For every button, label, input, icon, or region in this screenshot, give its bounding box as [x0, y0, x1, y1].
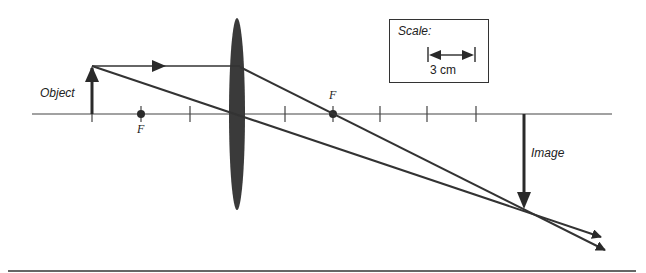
scale-title: Scale:	[398, 24, 431, 38]
image-label: Image	[531, 146, 564, 160]
ray-diagram	[0, 0, 646, 273]
focal-label-left: F	[137, 122, 144, 137]
object-label: Object	[40, 86, 75, 100]
focal-point-left	[137, 110, 145, 118]
scale-value: 3 cm	[430, 63, 456, 77]
scale-legend: Scale: 3 cm	[389, 19, 489, 83]
ray-direction-arrowhead	[152, 60, 166, 72]
focal-label-right: F	[329, 88, 336, 103]
